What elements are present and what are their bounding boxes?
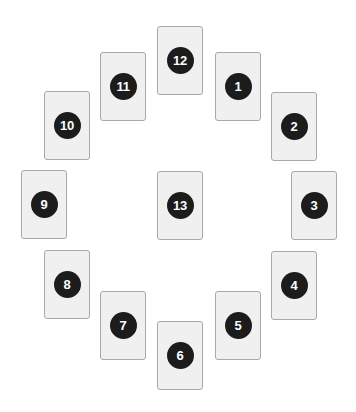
card-7[interactable]: 7 [100, 291, 146, 360]
card-13-center[interactable]: 13 [157, 171, 203, 240]
card-10[interactable]: 10 [44, 91, 90, 160]
card-11[interactable]: 11 [100, 52, 146, 121]
card-number-badge: 9 [31, 191, 58, 218]
card-number-badge: 6 [167, 342, 194, 369]
card-number-badge: 7 [110, 312, 137, 339]
card-3[interactable]: 3 [291, 171, 337, 240]
card-number-badge: 3 [301, 192, 328, 219]
card-number-badge: 5 [225, 312, 252, 339]
card-12[interactable]: 12 [157, 26, 203, 95]
card-number-badge: 8 [54, 271, 81, 298]
card-2[interactable]: 2 [271, 92, 317, 161]
card-number-badge: 13 [167, 192, 194, 219]
card-6[interactable]: 6 [157, 321, 203, 390]
card-spread-diagram: 1 2 3 4 5 6 7 8 9 10 11 12 13 [0, 0, 356, 412]
card-number-badge: 2 [281, 113, 308, 140]
card-number-badge: 1 [225, 73, 252, 100]
card-5[interactable]: 5 [215, 291, 261, 360]
card-number-badge: 4 [281, 272, 308, 299]
card-1[interactable]: 1 [215, 52, 261, 121]
card-8[interactable]: 8 [44, 250, 90, 319]
card-9[interactable]: 9 [21, 170, 67, 239]
card-number-badge: 11 [110, 73, 137, 100]
card-4[interactable]: 4 [271, 251, 317, 320]
card-number-badge: 12 [167, 47, 194, 74]
card-number-badge: 10 [54, 112, 81, 139]
